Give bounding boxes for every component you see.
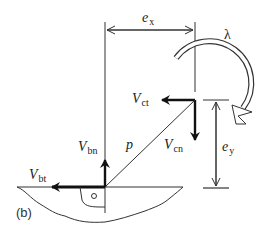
moment-arrow-icon xyxy=(176,41,252,124)
label-vbt: Vbt xyxy=(29,168,46,182)
terrain-outline xyxy=(17,187,183,222)
label-vcn: Vcn xyxy=(164,138,183,152)
soil-block-outline xyxy=(80,187,105,207)
pivot-circle-icon xyxy=(92,194,97,199)
panel-label: (b) xyxy=(16,205,32,220)
label-ex: ex xyxy=(142,11,154,25)
label-ey: ey xyxy=(222,140,234,154)
label-vbn: Vbn xyxy=(78,140,98,154)
label-vct: Vct xyxy=(132,92,149,106)
label-p: p xyxy=(126,138,133,152)
label-lambda: λ xyxy=(224,28,231,42)
